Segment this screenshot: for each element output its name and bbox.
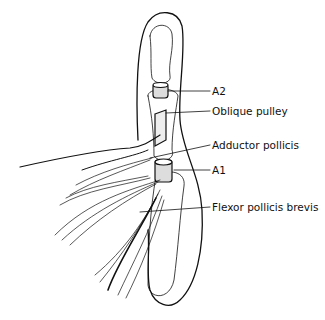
thumb-outline [137,13,202,306]
thumb-illustration [0,0,325,320]
label-a2: A2 [212,85,226,97]
distal-phalanx [150,25,172,83]
label-oblique-pulley: Oblique pulley [212,105,288,117]
label-flexor-pollicis-brevis: Flexor pollicis brevis [212,201,318,213]
oblique-pulley [155,110,166,146]
label-a1: A1 [212,164,226,176]
thumb-anatomy-diagram: A2 Oblique pulley Adductor pollicis A1 F… [0,0,325,320]
label-adductor-pollicis: Adductor pollicis [212,139,299,151]
